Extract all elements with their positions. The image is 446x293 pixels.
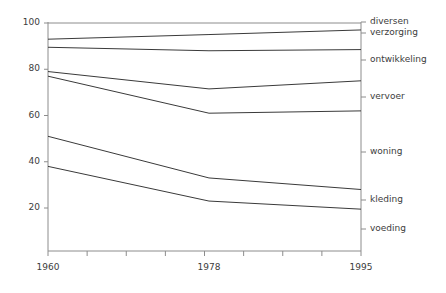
series-label-verzorging: verzorging [370, 28, 418, 37]
series-layer [48, 23, 361, 209]
series-line-vervoer [48, 72, 361, 89]
y-axis-tick-label: 80 [8, 64, 40, 73]
series-line-verzorging [48, 30, 361, 39]
y-axis-tick-label: 40 [8, 157, 40, 166]
axis-layer [44, 22, 366, 256]
series-label-vervoer: vervoer [370, 92, 405, 101]
y-axis-tick-label: 20 [8, 203, 40, 212]
line-chart: 10080604020 196019781995 diversenverzorg… [0, 0, 446, 293]
series-label-diversen: diversen [370, 17, 409, 26]
series-label-ontwikkeling: ontwikkeling [370, 55, 427, 64]
x-axis-tick-label: 1978 [185, 263, 233, 272]
series-line-woning [48, 76, 361, 113]
series-line-ontwikkeling [48, 47, 361, 50]
series-label-kleding: kleding [370, 195, 403, 204]
series-line-kleding [48, 136, 361, 189]
series-line-voeding [48, 166, 361, 209]
x-axis-tick-label: 1960 [24, 263, 72, 272]
series-label-woning: woning [370, 147, 403, 156]
y-axis-tick-label: 100 [8, 18, 40, 27]
x-axis-tick-label: 1995 [337, 263, 385, 272]
series-label-voeding: voeding [370, 224, 406, 233]
y-axis-tick-label: 60 [8, 111, 40, 120]
